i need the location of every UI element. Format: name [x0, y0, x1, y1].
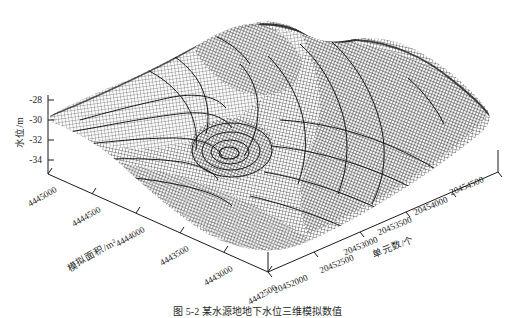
z-tick-label: -34: [16, 155, 42, 165]
z-tick-label: -32: [16, 135, 42, 145]
z-tick-label: -30: [16, 115, 42, 125]
figure-caption: 图 5-2 某水源地地下水位三维模拟数值: [0, 303, 515, 318]
z-tick-label: -28: [16, 95, 42, 105]
